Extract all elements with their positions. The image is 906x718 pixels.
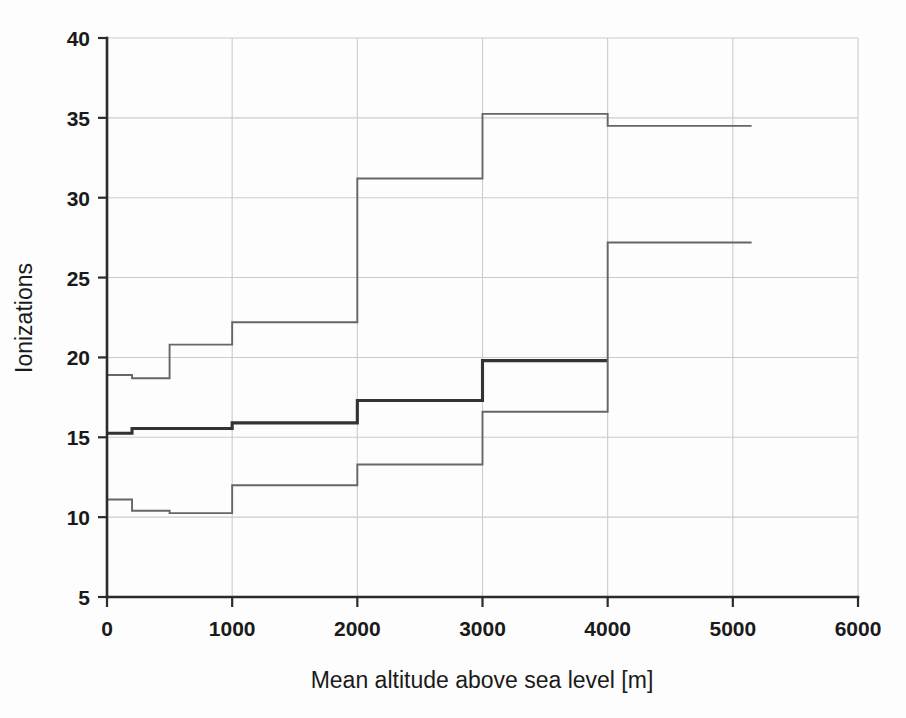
gridlines-vertical [232,38,858,597]
y-tick-label: 25 [67,267,91,290]
y-tick-label: 20 [67,346,90,369]
x-axis-title: Mean altitude above sea level [m] [311,667,654,693]
y-tick-labels: 510152025303540 [67,27,91,609]
data-series-group [107,114,752,513]
chart-svg: 510152025303540 010002000300040005000600… [0,0,906,718]
x-tick-label: 1000 [209,617,256,640]
y-tick-label: 5 [78,586,90,609]
y-tick-label: 40 [67,27,90,50]
y-tick-label: 15 [67,426,91,449]
y-tick-label: 10 [67,506,90,529]
x-tick-label: 0 [101,617,113,640]
series-upper-band [107,114,752,378]
x-tick-label: 2000 [334,617,381,640]
x-tick-label: 6000 [835,617,882,640]
y-tick-label: 35 [67,107,91,130]
chart-figure: 510152025303540 010002000300040005000600… [0,0,906,718]
y-tick-label: 30 [67,187,90,210]
x-tick-label: 5000 [709,617,756,640]
x-tick-labels: 0100020003000400050006000 [101,617,881,640]
y-axis-title: Ionizations [11,263,37,373]
x-tick-label: 4000 [584,617,631,640]
x-tick-label: 3000 [459,617,506,640]
series-lower-band [107,242,752,513]
